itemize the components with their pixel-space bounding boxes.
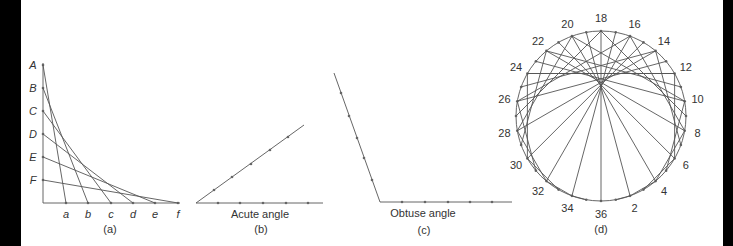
point-dot — [285, 202, 288, 205]
acute-angle-label: Acute angle — [231, 208, 289, 220]
horizontal-point-label: d — [130, 208, 137, 220]
circle-point-label: 4 — [661, 185, 667, 197]
circle-point-label: 16 — [628, 18, 640, 30]
point-dot — [469, 201, 472, 204]
curve-stitching-figure: ABCDEFabcdef 246810121416182022242628303… — [21, 0, 733, 246]
caption-a: (a) — [103, 223, 116, 235]
point-dot — [340, 92, 343, 95]
circle-point-label: 34 — [561, 202, 573, 214]
circle-point-label: 20 — [561, 18, 573, 30]
circle-point-label: 22 — [532, 35, 544, 47]
horizontal-point-label: f — [176, 208, 180, 220]
circle-point-label: 24 — [510, 61, 522, 73]
circle-point-label: 18 — [595, 12, 607, 24]
diagram-canvas: ABCDEFabcdef 246810121416182022242628303… — [21, 0, 723, 246]
vertical-point-label: D — [29, 128, 37, 140]
point-dot — [231, 176, 234, 179]
stitch-line — [43, 88, 88, 203]
stitch-line — [43, 180, 178, 203]
vertical-point-label: B — [29, 82, 36, 94]
chord-line — [644, 159, 675, 190]
caption-c: (c) — [418, 224, 431, 236]
caption-b: (b) — [254, 223, 267, 235]
point-dot — [239, 202, 242, 205]
point-dot — [307, 202, 310, 205]
chord-line — [536, 61, 685, 101]
horizontal-point-label: c — [108, 208, 114, 220]
point-dot — [356, 137, 359, 140]
chord-line — [630, 36, 685, 131]
figure-c-obtuse-angle — [334, 73, 512, 203]
horizontal-point-label: e — [152, 208, 158, 220]
point-dot — [217, 202, 220, 205]
point-dot — [287, 136, 290, 139]
point-dot — [213, 189, 216, 192]
circle-point-label: 2 — [631, 202, 637, 214]
vertical-point-label: E — [29, 151, 37, 163]
chord-line — [616, 196, 630, 200]
figure-b-acute-angle — [196, 125, 323, 204]
circle-point-label: 14 — [658, 35, 670, 47]
point-dot — [262, 202, 265, 205]
circle-point-label: 12 — [680, 61, 692, 73]
point-dot — [348, 115, 351, 118]
vertical-point-label: A — [28, 59, 36, 71]
horizontal-point-label: b — [85, 208, 91, 220]
point-dot — [371, 179, 374, 182]
circle-point-label: 6 — [683, 159, 689, 171]
obtuse-angle-label: Obtuse angle — [390, 207, 455, 219]
horizontal-point-label: a — [63, 208, 69, 220]
point-dot — [447, 201, 450, 204]
figure-d-circle-cardioid: 24681012141618202224262830323436 — [498, 12, 703, 220]
caption-d: (d) — [594, 223, 607, 235]
point-dot — [250, 163, 253, 166]
circle-point-label: 26 — [498, 93, 510, 105]
vertical-point-label: F — [30, 174, 38, 186]
point-dot — [269, 149, 272, 152]
chord-line — [572, 196, 586, 200]
circle-point-label: 32 — [532, 185, 544, 197]
chord-line — [517, 36, 572, 131]
point-dot — [491, 201, 494, 204]
point-dot — [401, 201, 404, 204]
stitch-line — [43, 111, 111, 203]
circle-point-label: 28 — [498, 127, 510, 139]
circle-point-label: 10 — [691, 93, 703, 105]
point-dot — [424, 201, 427, 204]
circle-point-label: 30 — [510, 159, 522, 171]
chord-line — [517, 61, 666, 101]
chord-line — [546, 181, 572, 196]
point-dot — [363, 157, 366, 160]
chord-line — [630, 181, 656, 196]
figure-a-corner-envelope: ABCDEFabcdef — [28, 59, 180, 220]
vertical-point-label: C — [29, 105, 37, 117]
circle-point-label: 36 — [595, 208, 607, 220]
circle-point-label: 8 — [694, 127, 700, 139]
